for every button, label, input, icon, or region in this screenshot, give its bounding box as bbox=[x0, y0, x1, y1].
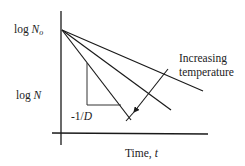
variable-t: t bbox=[155, 147, 158, 159]
slope-prefix: -1/ bbox=[71, 110, 84, 122]
temperature-annotation: Increasingtemperature bbox=[179, 51, 234, 79]
y-axis-label-initial: log No bbox=[14, 24, 43, 37]
x-axis-label: Time, t bbox=[125, 148, 158, 160]
log-prefix: log bbox=[16, 89, 34, 101]
variable-N: N bbox=[34, 89, 42, 101]
slope-label: -1/D bbox=[71, 111, 92, 123]
high-temperature-line bbox=[62, 30, 131, 120]
subscript-o: o bbox=[39, 28, 43, 37]
increasing-temperature-arrow bbox=[134, 69, 168, 112]
log-prefix: log bbox=[14, 23, 32, 35]
annotation-line-2: temperature bbox=[179, 65, 234, 79]
y-axis-label: log N bbox=[16, 90, 41, 102]
x-axis bbox=[52, 133, 208, 134]
annotation-line-1: Increasing bbox=[179, 51, 234, 65]
variable-D: D bbox=[84, 110, 92, 122]
time-prefix: Time, bbox=[125, 147, 155, 159]
